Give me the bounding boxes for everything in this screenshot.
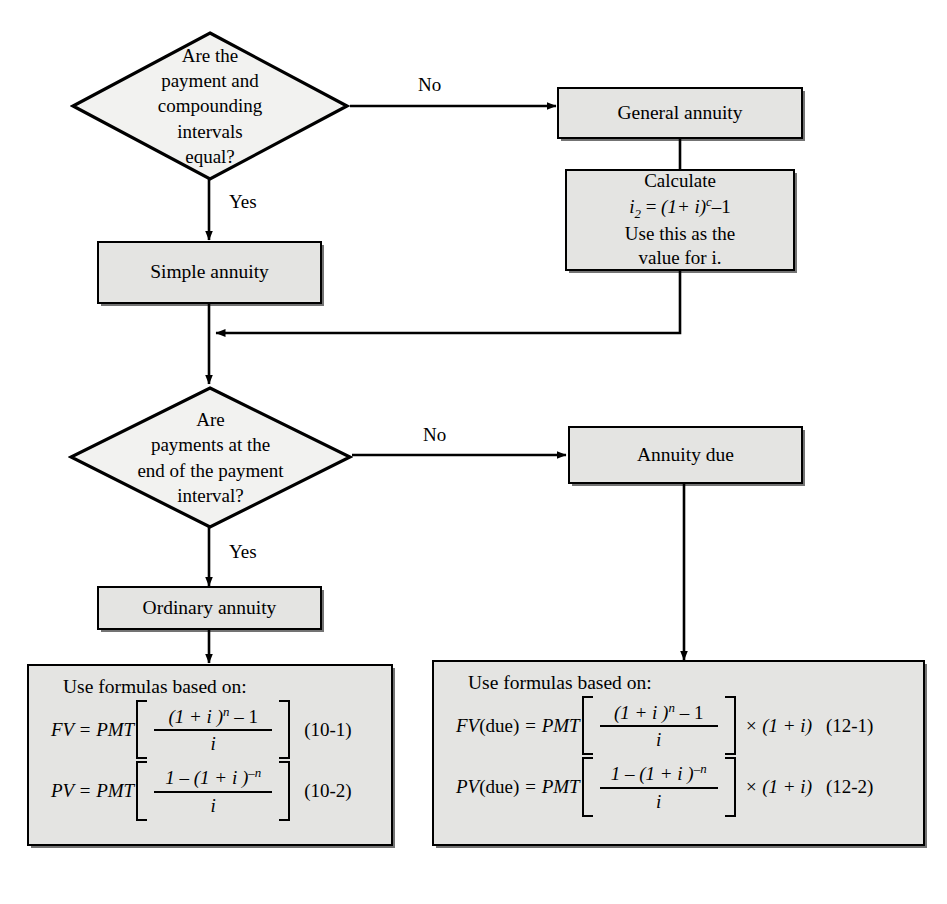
- formula-10-2-number: (10-2): [290, 780, 351, 802]
- formula-12-1-lhs: FV(due) = PMT: [456, 715, 582, 737]
- calculate-line-1: Calculate: [644, 169, 716, 193]
- formula-12-2-bracket: 1 – (1 + i )–n i: [582, 757, 736, 816]
- formula-row-12-2: PV(due) = PMT 1 – (1 + i )–n i × (1 + i)…: [434, 757, 923, 816]
- simple-annuity-label: Simple annuity: [99, 260, 320, 285]
- formula-10-1-denominator: i: [154, 731, 272, 756]
- calculate-line-4: value for i.: [639, 246, 722, 270]
- formula-12-1-number: (12-1): [812, 715, 873, 737]
- formula-10-2-bracket: 1 – (1 + i )–n i: [136, 761, 290, 820]
- formula-12-2-number: (12-2): [812, 776, 873, 798]
- general-annuity-label: General annuity: [559, 101, 801, 126]
- formula-10-1-number: (10-1): [290, 719, 351, 741]
- formula-10-1-lhs: FV = PMT: [51, 719, 136, 741]
- box-ordinary-annuity-formulas[interactable]: Use formulas based on: FV = PMT (1 + i )…: [27, 664, 393, 846]
- formula-row-12-1: FV(due) = PMT (1 + i )n – 1 i × (1 + i) …: [434, 696, 923, 755]
- due-formulas-heading: Use formulas based on:: [434, 672, 923, 694]
- formula-10-1-bracket: (1 + i )n – 1 i: [136, 700, 290, 759]
- formula-12-2-tail: × (1 + i): [736, 776, 812, 798]
- ordinary-annuity-label: Ordinary annuity: [99, 596, 320, 621]
- node-simple-annuity[interactable]: Simple annuity: [97, 241, 322, 304]
- flowchart-canvas: Are the payment and compounding interval…: [0, 0, 947, 904]
- node-calculate-i2[interactable]: Calculate i2 = (1+ i)c–1 Use this as the…: [565, 169, 795, 271]
- node-general-annuity[interactable]: General annuity: [557, 87, 803, 139]
- calculate-formula: i2 = (1+ i)c–1: [629, 194, 731, 223]
- decision-payment-compounding-intervals[interactable]: Are the payment and compounding interval…: [70, 30, 350, 182]
- formula-row-10-1: FV = PMT (1 + i )n – 1 i (10-1): [29, 700, 391, 759]
- annuity-due-label: Annuity due: [570, 443, 801, 468]
- formula-12-2-lhs: PV(due) = PMT: [456, 776, 582, 798]
- decision1-label: Are the payment and compounding interval…: [70, 30, 350, 182]
- formula-12-2-denominator: i: [600, 789, 718, 814]
- box-annuity-due-formulas[interactable]: Use formulas based on: FV(due) = PMT (1 …: [432, 660, 925, 846]
- formula-12-1-tail: × (1 + i): [736, 715, 812, 737]
- node-ordinary-annuity[interactable]: Ordinary annuity: [97, 586, 322, 630]
- formula-10-2-numerator: 1 – (1 + i )–n: [154, 764, 272, 792]
- calculate-formula-eq: =: [641, 196, 661, 217]
- formula-12-1-denominator: i: [600, 727, 718, 752]
- formula-10-2-denominator: i: [154, 793, 272, 818]
- formula-10-2-lhs: PV = PMT: [51, 780, 136, 802]
- edge-label-d2-no: No: [423, 424, 446, 446]
- edge-label-d1-no: No: [418, 74, 441, 96]
- formula-10-1-numerator: (1 + i )n – 1: [154, 703, 272, 731]
- decision2-label: Are payments at the end of the payment i…: [68, 385, 353, 530]
- formula-12-1-bracket: (1 + i )n – 1 i: [582, 696, 736, 755]
- calculate-formula-minus: –1: [712, 196, 731, 217]
- node-annuity-due[interactable]: Annuity due: [568, 426, 803, 484]
- ordinary-formulas-heading: Use formulas based on:: [29, 676, 391, 698]
- edge-label-d1-yes: Yes: [229, 191, 257, 213]
- decision-payments-end-of-interval[interactable]: Are payments at the end of the payment i…: [68, 385, 353, 530]
- formula-12-1-numerator: (1 + i )n – 1: [600, 699, 718, 727]
- calculate-formula-rhs: (1+ i): [661, 196, 706, 217]
- edge-label-d2-yes: Yes: [229, 541, 257, 563]
- calculate-line-3: Use this as the: [625, 222, 735, 246]
- formula-12-2-numerator: 1 – (1 + i )–n: [600, 760, 718, 788]
- formula-row-10-2: PV = PMT 1 – (1 + i )–n i (10-2): [29, 761, 391, 820]
